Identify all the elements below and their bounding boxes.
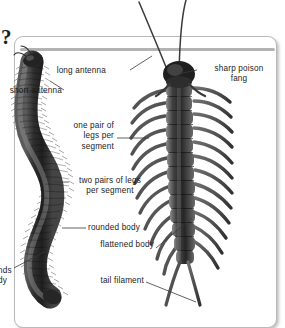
label-one-pair-of-legs: one pair of legs per segment xyxy=(48,121,114,152)
label-tail-filament: tail filament xyxy=(82,276,144,286)
label-rounded-body: rounded body xyxy=(88,223,158,233)
label-long-antenna: long antenna xyxy=(24,66,106,76)
question-mark-glyph: ? xyxy=(1,27,12,48)
header-rule xyxy=(20,48,275,51)
label-sharp-poison-fang: sharp poison fang xyxy=(200,64,278,85)
label-clipped-left-lower: nds dy xyxy=(0,266,24,287)
label-two-pairs-of-legs: two pairs of legs per segment xyxy=(72,176,148,197)
label-flattened-body: flattened body xyxy=(86,240,154,250)
label-short-antenna: short antenna xyxy=(0,86,62,96)
